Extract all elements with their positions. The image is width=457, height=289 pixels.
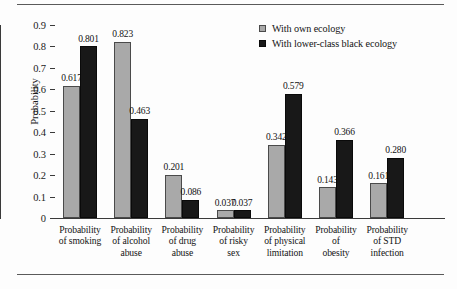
bar-lower-class-black-ecology	[285, 94, 302, 218]
x-axis-category-line: Probability	[260, 224, 309, 235]
x-axis-category-line: sex	[209, 247, 258, 258]
legend-item: With own ecology	[259, 22, 397, 35]
x-axis-category-line: Probability	[209, 224, 258, 235]
y-axis-tick-label: 0	[8, 213, 46, 224]
x-axis-category-line: of alcohol	[107, 235, 156, 246]
x-axis-category-line: Probability	[311, 224, 360, 235]
bar-own-ecology	[217, 210, 234, 218]
x-axis-category-line: of risky	[209, 235, 258, 246]
legend-label: With own ecology	[272, 23, 345, 34]
x-axis-category-line: obesity	[311, 247, 360, 258]
x-axis-category-line: infection	[363, 247, 412, 258]
y-axis-tick-label: 0.9	[8, 20, 46, 31]
bar-lower-class-black-ecology	[182, 200, 199, 218]
x-axis-category-line: Probability	[107, 224, 156, 235]
bar-own-ecology	[319, 187, 336, 218]
x-axis-category-line: of	[311, 235, 360, 246]
bar-value-label: 0.366	[328, 127, 362, 137]
x-axis-category-label: Probabilityofobesity	[311, 224, 360, 258]
x-axis-category-line: limitation	[260, 247, 309, 258]
y-axis-label: Probability	[29, 42, 40, 162]
bar-value-label: 0.037	[225, 198, 259, 208]
x-axis-category-label: Probabilityof drugabuse	[158, 224, 207, 258]
y-axis-tick-label: 0.1	[8, 191, 46, 202]
bar-value-label: 0.579	[276, 81, 310, 91]
bar-value-label: 0.823	[106, 29, 140, 39]
figure-container: Probability 00.10.20.30.40.50.60.70.80.9…	[0, 0, 457, 289]
bar-own-ecology	[63, 86, 80, 218]
y-axis-tick-label: 0.4	[8, 127, 46, 138]
y-axis-tick-label: 0.6	[8, 84, 46, 95]
figure-top-rule	[17, 4, 444, 5]
x-axis-category-line: Probability	[55, 224, 104, 235]
bar-value-label: 0.201	[157, 162, 191, 172]
bar-lower-class-black-ecology	[336, 140, 353, 218]
y-axis-tick-label: 0.3	[8, 148, 46, 159]
y-axis-tick-label: 0.8	[8, 41, 46, 52]
y-axis-tick-mark	[50, 218, 55, 219]
y-axis-tick-label: 0.2	[8, 170, 46, 181]
x-axis-category-line: of smoking	[55, 235, 104, 246]
bar-lower-class-black-ecology	[234, 210, 251, 218]
bar-own-ecology	[370, 183, 387, 218]
x-axis-category-label: Probabilityof STDinfection	[363, 224, 412, 258]
x-axis-category-label: Probabilityof physicallimitation	[260, 224, 309, 258]
x-axis-category-line: of physical	[260, 235, 309, 246]
bar-value-label: 0.280	[379, 145, 413, 155]
x-axis-category-line: abuse	[107, 247, 156, 258]
x-axis-category-line: Probability	[363, 224, 412, 235]
y-axis-tick-label: 0.5	[8, 105, 46, 116]
legend-item: With lower-class black ecology	[259, 37, 397, 50]
bar-lower-class-black-ecology	[387, 158, 404, 218]
y-axis-tick-label: 0.7	[8, 62, 46, 73]
x-axis-category-line: Probability	[158, 224, 207, 235]
bar-lower-class-black-ecology	[131, 119, 148, 218]
bar-own-ecology	[114, 42, 131, 218]
y-axis-line	[0, 25, 1, 219]
x-axis-category-line: of drug	[158, 235, 207, 246]
figure-bottom-rule	[17, 274, 444, 275]
bar-own-ecology	[268, 145, 285, 218]
legend-label: With lower-class black ecology	[272, 38, 397, 49]
chart-legend: With own ecologyWith lower-class black e…	[259, 22, 397, 52]
x-axis-category-line: of STD	[363, 235, 412, 246]
x-axis-category-label: Probabilityof alcoholabuse	[107, 224, 156, 258]
x-axis-category-label: Probabilityof riskysex	[209, 224, 258, 258]
x-axis-category-label: Probabilityof smoking	[55, 224, 104, 247]
legend-swatch-lower	[259, 40, 266, 47]
bar-value-label: 0.801	[72, 34, 106, 44]
legend-swatch-own	[259, 25, 266, 32]
bar-lower-class-black-ecology	[80, 46, 97, 218]
x-axis-baseline	[55, 218, 445, 219]
bar-value-label: 0.086	[174, 187, 208, 197]
x-axis-category-line: abuse	[158, 247, 207, 258]
bar-value-label: 0.463	[123, 106, 157, 116]
